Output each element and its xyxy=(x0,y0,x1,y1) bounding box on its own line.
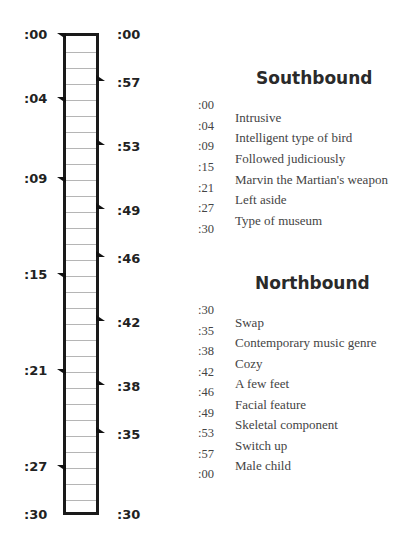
southbound-stop-flag xyxy=(57,273,66,279)
rung xyxy=(66,228,96,229)
rung xyxy=(66,196,96,197)
right-time-label: :42 xyxy=(117,316,140,329)
northbound-clue: Swap xyxy=(235,316,264,329)
left-time-label: :15 xyxy=(24,268,47,281)
southbound-time: :15 xyxy=(198,161,214,174)
right-time-label: :53 xyxy=(117,140,140,153)
southbound-clue: Intelligent type of bird xyxy=(235,131,352,144)
right-time-label: :30 xyxy=(117,508,140,521)
rung xyxy=(66,164,96,165)
left-time-label: :27 xyxy=(24,460,47,473)
rung xyxy=(66,84,96,85)
rung xyxy=(66,372,96,373)
southbound-stop-flag xyxy=(57,97,66,103)
rung xyxy=(66,52,96,53)
rung xyxy=(66,116,96,117)
right-time-label: :35 xyxy=(117,428,140,441)
rung xyxy=(66,356,96,357)
rung xyxy=(66,260,96,261)
rung xyxy=(66,388,96,389)
rung xyxy=(66,212,96,213)
southbound-heading: Southbound xyxy=(256,70,372,87)
ladder-box xyxy=(63,33,99,515)
right-time-label: :57 xyxy=(117,76,140,89)
right-time-label: :00 xyxy=(117,28,140,41)
left-time-label: :30 xyxy=(24,508,47,521)
southbound-stop-flag xyxy=(57,33,66,39)
northbound-stop-flag xyxy=(96,427,105,433)
northbound-stop-flag xyxy=(96,379,105,385)
northbound-clue: Switch up xyxy=(235,439,287,452)
southbound-clue: Intrusive xyxy=(235,111,281,124)
southbound-stop-flag xyxy=(57,369,66,375)
southbound-stop-flag xyxy=(57,177,66,183)
southbound-time: :00 xyxy=(198,99,214,112)
rung xyxy=(66,292,96,293)
northbound-time: :00 xyxy=(198,468,214,481)
northbound-time: :42 xyxy=(198,366,214,379)
southbound-clue: Marvin the Martian's weapon xyxy=(235,173,388,186)
rung xyxy=(66,500,96,501)
right-time-label: :46 xyxy=(117,252,140,265)
northbound-heading: Northbound xyxy=(255,275,370,292)
northbound-clue: Contemporary music genre xyxy=(235,336,377,349)
left-time-label: :00 xyxy=(24,28,47,41)
southbound-time: :04 xyxy=(198,120,214,133)
southbound-clue: Followed judiciously xyxy=(235,152,345,165)
southbound-clue: Left aside xyxy=(235,193,287,206)
northbound-clue: Male child xyxy=(235,459,291,472)
northbound-time: :35 xyxy=(198,325,214,338)
southbound-time: :30 xyxy=(198,223,214,236)
rung xyxy=(66,340,96,341)
northbound-time: :53 xyxy=(198,427,214,440)
northbound-stop-flag xyxy=(96,75,105,81)
rung xyxy=(66,148,96,149)
southbound-clue: Type of museum xyxy=(235,214,322,227)
southbound-stop-flag xyxy=(57,465,66,471)
northbound-time: :46 xyxy=(198,386,214,399)
rung xyxy=(66,452,96,453)
right-time-label: :49 xyxy=(117,204,140,217)
northbound-stop-flag xyxy=(96,139,105,145)
rung xyxy=(66,180,96,181)
left-time-label: :09 xyxy=(24,172,47,185)
rung xyxy=(66,468,96,469)
northbound-time: :38 xyxy=(198,345,214,358)
northbound-stop-flag xyxy=(96,315,105,321)
rung xyxy=(66,68,96,69)
rung xyxy=(66,436,96,437)
northbound-clue: Cozy xyxy=(235,357,262,370)
northbound-clue: Skeletal component xyxy=(235,418,338,431)
left-time-label: :21 xyxy=(24,364,47,377)
rung xyxy=(66,244,96,245)
rung xyxy=(66,404,96,405)
northbound-stop-flag xyxy=(96,203,105,209)
northbound-time: :57 xyxy=(198,448,214,461)
southbound-time: :09 xyxy=(198,140,214,153)
northbound-time: :49 xyxy=(198,407,214,420)
northbound-clue: Facial feature xyxy=(235,398,306,411)
northbound-clue: A few feet xyxy=(235,377,289,390)
northbound-stop-flag xyxy=(96,251,105,257)
rung xyxy=(66,308,96,309)
rung xyxy=(66,132,96,133)
northbound-time: :30 xyxy=(198,304,214,317)
left-time-label: :04 xyxy=(24,92,47,105)
rung xyxy=(66,100,96,101)
rung xyxy=(66,420,96,421)
rung xyxy=(66,324,96,325)
southbound-time: :27 xyxy=(198,202,214,215)
southbound-time: :21 xyxy=(198,182,214,195)
rung xyxy=(66,276,96,277)
rung xyxy=(66,484,96,485)
right-time-label: :38 xyxy=(117,380,140,393)
